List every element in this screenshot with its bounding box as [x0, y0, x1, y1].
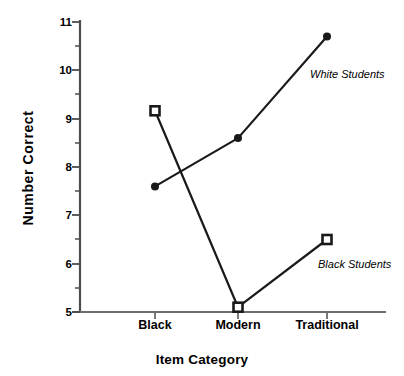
- y-axis-title: Number Correct: [20, 78, 36, 258]
- y-tick-label-8: 8: [52, 161, 72, 173]
- y-axis-major-ticks: [72, 22, 80, 312]
- y-tick-label-11: 11: [52, 16, 72, 28]
- y-tick-label-7: 7: [52, 209, 72, 221]
- y-tick-label-6: 6: [52, 258, 72, 270]
- y-tick-label-9: 9: [52, 113, 72, 125]
- data-point-white-black: [151, 182, 159, 190]
- data-point-white-traditional: [323, 33, 331, 41]
- data-point-white-modern: [234, 134, 242, 142]
- y-tick-label-5: 5: [52, 306, 72, 318]
- series-label-white-students: White Students: [310, 68, 385, 80]
- x-axis-title: Item Category: [0, 352, 404, 367]
- x-tick-label-modern: Modern: [215, 318, 260, 332]
- data-point-black-black: [151, 106, 160, 115]
- data-point-black-traditional: [323, 235, 332, 244]
- chart-figure: Number Correct Item Category 11 10 9 8 7…: [0, 0, 404, 376]
- x-tick-label-black: Black: [138, 318, 171, 332]
- series-line-white-students: [155, 37, 327, 187]
- y-tick-label-10: 10: [52, 64, 72, 76]
- series-label-black-students: Black Students: [318, 258, 391, 270]
- x-tick-label-traditional: Traditional: [295, 318, 358, 332]
- data-point-black-modern: [234, 303, 243, 312]
